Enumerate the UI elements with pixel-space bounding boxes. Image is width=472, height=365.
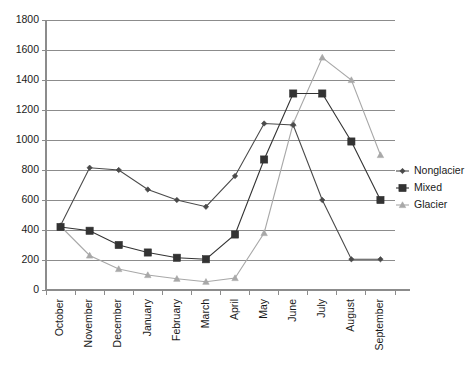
x-axis-tick-label: February bbox=[170, 298, 182, 341]
data-point-marker-diamond bbox=[174, 197, 179, 202]
y-axis-tick-label: 0 bbox=[33, 283, 39, 295]
y-axis-tick-label: 400 bbox=[21, 223, 39, 235]
x-axis-tick-marks bbox=[46, 290, 395, 295]
data-point-marker-square bbox=[57, 223, 64, 230]
x-axis-tick-label: January bbox=[141, 298, 153, 336]
y-axis-tick-label: 600 bbox=[21, 193, 39, 205]
y-axis-tick-label: 1400 bbox=[16, 73, 40, 85]
data-point-marker-diamond bbox=[400, 168, 405, 173]
x-axis-tick-label: May bbox=[257, 298, 269, 319]
x-axis-tick-label: March bbox=[199, 299, 211, 328]
data-point-marker-diamond bbox=[261, 121, 266, 126]
data-point-marker-square bbox=[231, 231, 238, 238]
data-point-marker-triangle bbox=[116, 266, 122, 272]
x-axis-tick-label: October bbox=[53, 299, 65, 337]
series-line bbox=[61, 94, 381, 260]
data-point-marker-square bbox=[319, 90, 326, 97]
y-axis-tick-label: 1800 bbox=[16, 13, 40, 25]
legend-item-nonglacier[interactable]: Nonglacier bbox=[396, 164, 465, 176]
legend-item-glacier[interactable]: Glacier bbox=[396, 198, 448, 210]
legend-item-mixed[interactable]: Mixed bbox=[396, 181, 442, 193]
data-point-marker-triangle bbox=[319, 54, 325, 60]
y-axis-tick-label: 1200 bbox=[16, 103, 40, 115]
data-point-marker-square bbox=[399, 184, 406, 191]
data-point-marker-square bbox=[290, 90, 297, 97]
data-point-marker-square bbox=[86, 227, 93, 234]
data-point-marker-square bbox=[173, 254, 180, 261]
data-point-marker-diamond bbox=[320, 197, 325, 202]
axis-lines bbox=[46, 20, 410, 290]
legend-label: Mixed bbox=[414, 181, 442, 193]
y-axis-tick-label: 1600 bbox=[16, 43, 40, 55]
data-point-marker-diamond bbox=[378, 257, 383, 262]
x-axis-tick-label: June bbox=[286, 299, 298, 322]
y-axis-tick-label: 200 bbox=[21, 253, 39, 265]
series-nonglacier bbox=[58, 121, 383, 262]
data-point-marker-square bbox=[377, 196, 384, 203]
y-axis-tick-label: 1000 bbox=[16, 133, 40, 145]
data-point-marker-square bbox=[261, 156, 268, 163]
data-point-marker-diamond bbox=[349, 257, 354, 262]
y-axis-tick-label: 800 bbox=[21, 163, 39, 175]
x-axis-tick-label: April bbox=[228, 299, 240, 320]
x-axis-tick-labels: OctoberNovemberDecemberJanuaryFebruaryMa… bbox=[53, 298, 385, 350]
series-line bbox=[61, 124, 381, 260]
chart-legend: NonglacierMixedGlacier bbox=[396, 164, 465, 210]
series-mixed bbox=[57, 90, 384, 263]
data-point-marker-square bbox=[115, 241, 122, 248]
data-point-marker-square bbox=[348, 138, 355, 145]
chart-canvas: 020040060080010001200140016001800 Octobe… bbox=[0, 0, 472, 365]
data-point-marker-triangle bbox=[232, 275, 238, 281]
x-axis-tick-label: July bbox=[315, 298, 327, 317]
legend-label: Nonglacier bbox=[414, 164, 465, 176]
data-point-marker-square bbox=[144, 249, 151, 256]
x-axis-tick-label: November bbox=[82, 298, 94, 347]
data-point-marker-triangle bbox=[261, 230, 267, 236]
x-axis-tick-label: December bbox=[111, 298, 123, 347]
gridlines-group bbox=[42, 20, 395, 290]
data-point-marker-triangle bbox=[377, 152, 383, 158]
line-chart: 020040060080010001200140016001800 Octobe… bbox=[0, 0, 472, 365]
x-axis-tick-label: September bbox=[373, 299, 385, 351]
data-point-marker-diamond bbox=[291, 122, 296, 127]
y-axis-tick-labels: 020040060080010001200140016001800 bbox=[16, 13, 40, 295]
legend-label: Glacier bbox=[414, 198, 448, 210]
series-group bbox=[57, 54, 384, 284]
data-point-marker-square bbox=[202, 256, 209, 263]
x-axis-tick-label: August bbox=[344, 299, 356, 332]
